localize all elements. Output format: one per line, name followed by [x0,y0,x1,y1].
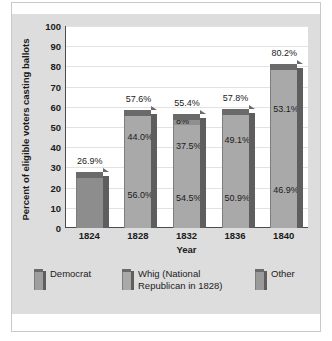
bar-side-face [297,68,303,228]
y-axis-tick-label: 60 [50,101,61,112]
y-axis-title: Percent of eligible voters casting ballo… [18,28,32,230]
chart-legend: DemocratWhig (NationalRepublican in 1828… [12,262,320,310]
legend-swatch-icon [34,269,43,290]
y-axis-tick-label: 80 [50,61,61,72]
y-axis-tick-label: 100 [45,21,61,32]
y-axis-tick-label: 40 [50,142,61,153]
bar-total-label: 55.4% [169,98,205,108]
y-axis-tick-label: 70 [50,81,61,92]
y-axis-tick-label: 30 [50,162,61,173]
bar-segment [76,174,103,228]
legend-item: Whig (NationalRepublican in 1828) [122,268,223,292]
bar-segment: 54.5% [173,167,200,228]
segment-value-label: 37.5% [176,141,202,151]
x-axis-tick-label: 1836 [213,230,257,241]
legend-label: Whig (NationalRepublican in 1828) [138,268,223,292]
bar-top-face [173,114,200,120]
bar-side-face [200,118,206,228]
x-axis-tick-label: 1832 [165,230,209,241]
bar-total-label: 57.8% [218,93,254,103]
gridline [66,26,309,27]
bar-top-face [76,172,103,178]
x-axis-tick-label: 1824 [67,230,111,241]
segment-value-label: 50.9% [225,193,251,203]
segment-value-label: 56.0% [127,190,153,200]
bar-side-face [151,114,157,228]
top-caption-strip [12,3,320,14]
legend-label: Democrat [50,268,91,280]
segment-value-label: 46.9% [273,185,299,195]
bar-total-label: 80.2% [266,48,302,58]
y-axis-tick-label: 0 [56,223,61,234]
legend-item: Other [255,268,295,290]
y-axis-tick-label: 10 [50,202,61,213]
figure-root: Percent of eligible voters casting ballo… [0,0,332,341]
bar-top-face [124,110,151,116]
y-axis-tick-label: 50 [50,122,61,133]
legend-swatch-icon [255,269,264,290]
bar-segment: 56.0% [124,163,151,228]
legend-item: Democrat [34,268,91,290]
bar-segment: 44.0% [124,112,151,163]
y-axis-tick-label: 90 [50,41,61,52]
bar-segment: 49.1% [222,111,249,168]
bar-side-face [249,113,255,228]
segment-value-label: 54.5% [176,193,202,203]
bar-segment: 50.9% [222,169,249,228]
legend-label: Other [271,268,295,280]
segment-value-label: 44.0% [127,132,153,142]
bar-segment: 53.1% [270,66,297,152]
bar-side-face [103,176,109,228]
plot-area-wrapper: 0102030405060708090100 26.9%56.0%44.0%57… [65,26,308,228]
x-axis-title: Year [65,244,308,255]
legend-swatch-icon [122,269,131,290]
bar-total-label: 26.9% [72,156,108,166]
x-axis-tick-label: 1840 [262,230,306,241]
bar-top-face [222,109,249,115]
bar-segment: 46.9% [270,152,297,228]
segment-value-label: 53.1% [273,104,299,114]
y-axis-tick-label: 20 [50,182,61,193]
bar-segment: 37.5% [173,125,200,167]
segment-value-label: 49.1% [225,135,251,145]
x-axis-tick-label: 1828 [116,230,160,241]
bar-top-face [270,64,297,70]
bar-total-label: 57.6% [120,94,156,104]
